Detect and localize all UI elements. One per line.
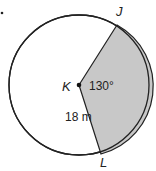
center-k-label: K <box>62 80 71 93</box>
point-l-label: L <box>100 156 107 169</box>
center-point <box>77 83 82 88</box>
bullet-dot <box>1 12 4 15</box>
point-j-label: J <box>116 5 123 18</box>
radius-label: 18 m <box>65 111 92 123</box>
circle-diagram <box>0 0 156 171</box>
angle-label: 130° <box>89 80 114 92</box>
